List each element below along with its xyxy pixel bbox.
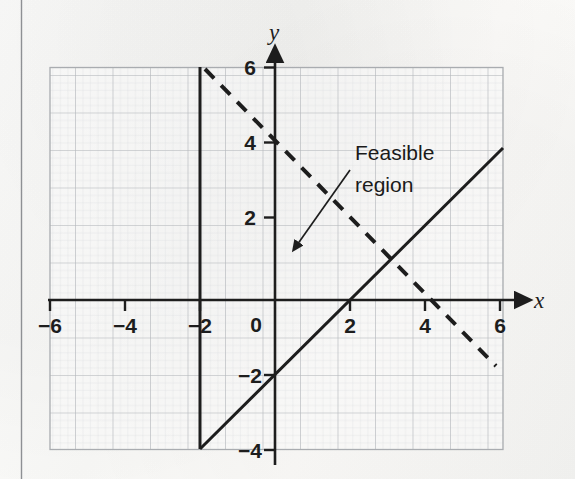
coordinate-plane-svg: −6 −4 −2 2 4 6 6 4 2 −2 −4 0 x y (0, 0, 575, 479)
y-tick-label-neg4: −4 (238, 439, 262, 462)
grid-area (50, 68, 503, 450)
x-tick-label-6: 6 (494, 314, 506, 337)
feasible-region-label-line1: Feasible (355, 141, 434, 164)
y-tick-label-2: 2 (244, 206, 256, 229)
x-tick-label-neg4: −4 (113, 314, 137, 337)
y-tick-label-6: 6 (244, 56, 256, 79)
x-tick-label-2: 2 (344, 314, 356, 337)
y-tick-label-neg2: −2 (238, 364, 262, 387)
x-tick-label-neg6: −6 (38, 314, 62, 337)
y-tick-label-4: 4 (244, 131, 256, 154)
y-axis-name: y (267, 20, 280, 45)
feasible-region-label-line2: region (355, 173, 413, 196)
x-tick-label-4: 4 (419, 314, 431, 337)
graph-figure: −6 −4 −2 2 4 6 6 4 2 −2 −4 0 x y (0, 0, 575, 479)
x-axis-name: x (533, 288, 545, 313)
origin-label: 0 (250, 313, 262, 336)
